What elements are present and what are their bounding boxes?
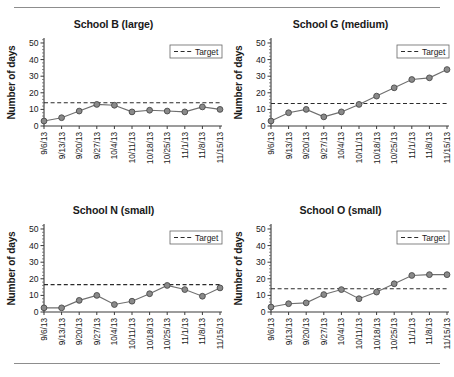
chart-panel-school-o: School O (small) Number of days 01020304…: [227, 200, 454, 377]
svg-text:10/11/13: 10/11/13: [128, 318, 137, 350]
svg-text:50: 50: [256, 224, 266, 234]
svg-text:0: 0: [261, 121, 266, 131]
y-axis-label: Number of days: [4, 34, 18, 130]
svg-text:11/15/13: 11/15/13: [216, 132, 225, 164]
svg-text:20: 20: [256, 88, 266, 98]
svg-text:10/4/13: 10/4/13: [110, 132, 119, 160]
svg-text:50: 50: [29, 224, 39, 234]
svg-text:10: 10: [29, 104, 39, 114]
svg-text:9/6/13: 9/6/13: [267, 318, 276, 341]
svg-text:9/20/13: 9/20/13: [75, 318, 84, 346]
svg-text:10/4/13: 10/4/13: [110, 318, 119, 346]
svg-text:11/8/13: 11/8/13: [425, 318, 434, 345]
svg-text:9/13/13: 9/13/13: [58, 318, 67, 346]
y-axis-label: Number of days: [231, 220, 245, 316]
chart-title: School B (large): [0, 18, 227, 30]
y-axis-label-text: Number of days: [233, 45, 244, 119]
top-divider-rule: [14, 7, 440, 8]
svg-text:50: 50: [29, 38, 39, 48]
svg-text:30: 30: [256, 257, 266, 267]
chart-area: Number of days 010203040509/6/139/13/139…: [0, 220, 227, 377]
svg-text:11/8/13: 11/8/13: [198, 318, 207, 345]
svg-text:11/8/13: 11/8/13: [198, 132, 207, 159]
svg-text:20: 20: [256, 274, 266, 284]
svg-text:11/1/13: 11/1/13: [181, 132, 190, 159]
chart-area: Number of days 010203040509/6/139/13/139…: [227, 34, 454, 194]
plot-svg: 010203040509/6/139/13/139/20/139/27/1310…: [18, 34, 224, 194]
svg-text:30: 30: [29, 257, 39, 267]
svg-text:11/15/13: 11/15/13: [443, 132, 452, 164]
svg-text:10/11/13: 10/11/13: [355, 318, 364, 350]
svg-text:10/18/13: 10/18/13: [373, 318, 382, 350]
svg-text:11/1/13: 11/1/13: [181, 318, 190, 345]
svg-text:40: 40: [256, 241, 266, 251]
svg-text:40: 40: [256, 55, 266, 65]
svg-text:9/20/13: 9/20/13: [302, 318, 311, 346]
svg-text:9/27/13: 9/27/13: [320, 318, 329, 346]
plot-svg: 010203040509/6/139/13/139/20/139/27/1310…: [245, 220, 451, 377]
svg-text:9/20/13: 9/20/13: [302, 132, 311, 160]
svg-text:0: 0: [34, 121, 39, 131]
chart-title: School G (medium): [227, 18, 454, 30]
y-axis-label-text: Number of days: [233, 231, 244, 305]
chart-panel-school-b: School B (large) Number of days 01020304…: [0, 14, 227, 200]
svg-text:11/1/13: 11/1/13: [408, 318, 417, 345]
chart-area: Number of days 010203040509/6/139/13/139…: [227, 220, 454, 377]
svg-text:10/18/13: 10/18/13: [146, 318, 155, 350]
chart-title: School O (small): [227, 204, 454, 216]
plot-svg: 010203040509/6/139/13/139/20/139/27/1310…: [245, 34, 451, 194]
svg-text:10: 10: [256, 290, 266, 300]
y-axis-label-text: Number of days: [6, 231, 17, 305]
svg-text:10/18/13: 10/18/13: [373, 132, 382, 164]
svg-text:Target: Target: [422, 47, 446, 57]
svg-text:0: 0: [34, 307, 39, 317]
svg-text:0: 0: [261, 307, 266, 317]
svg-text:9/20/13: 9/20/13: [75, 132, 84, 160]
svg-text:9/6/13: 9/6/13: [40, 318, 49, 341]
svg-text:9/6/13: 9/6/13: [267, 132, 276, 155]
svg-text:9/13/13: 9/13/13: [58, 132, 67, 160]
svg-text:30: 30: [29, 71, 39, 81]
svg-text:40: 40: [29, 55, 39, 65]
y-axis-label: Number of days: [4, 220, 18, 316]
svg-text:11/15/13: 11/15/13: [443, 318, 452, 350]
svg-text:10/11/13: 10/11/13: [355, 132, 364, 164]
svg-text:30: 30: [256, 71, 266, 81]
svg-text:Target: Target: [195, 233, 219, 243]
y-axis-label: Number of days: [231, 34, 245, 130]
svg-text:Target: Target: [422, 233, 446, 243]
svg-text:11/8/13: 11/8/13: [425, 132, 434, 159]
svg-text:10/18/13: 10/18/13: [146, 132, 155, 164]
svg-text:9/6/13: 9/6/13: [40, 132, 49, 155]
chart-panel-school-g: School G (medium) Number of days 0102030…: [227, 14, 454, 200]
svg-text:9/27/13: 9/27/13: [320, 132, 329, 160]
svg-text:10: 10: [256, 104, 266, 114]
svg-text:10/25/13: 10/25/13: [390, 318, 399, 350]
svg-text:10/4/13: 10/4/13: [337, 318, 346, 346]
svg-text:20: 20: [29, 88, 39, 98]
svg-text:10/25/13: 10/25/13: [163, 132, 172, 164]
svg-text:10/4/13: 10/4/13: [337, 132, 346, 160]
svg-text:40: 40: [29, 241, 39, 251]
svg-text:10: 10: [29, 290, 39, 300]
y-axis-label-text: Number of days: [6, 45, 17, 119]
figure-page: School B (large) Number of days 01020304…: [0, 0, 454, 377]
chart-area: Number of days 010203040509/6/139/13/139…: [0, 34, 227, 194]
svg-text:50: 50: [256, 38, 266, 48]
svg-text:20: 20: [29, 274, 39, 284]
plot-svg: 010203040509/6/139/13/139/20/139/27/1310…: [18, 220, 224, 377]
chart-panel-school-n: School N (small) Number of days 01020304…: [0, 200, 227, 377]
svg-text:9/13/13: 9/13/13: [285, 318, 294, 346]
chart-title: School N (small): [0, 204, 227, 216]
svg-text:10/25/13: 10/25/13: [390, 132, 399, 164]
svg-text:Target: Target: [195, 47, 219, 57]
svg-text:11/1/13: 11/1/13: [408, 132, 417, 159]
svg-text:10/25/13: 10/25/13: [163, 318, 172, 350]
svg-text:9/13/13: 9/13/13: [285, 132, 294, 160]
svg-text:10/11/13: 10/11/13: [128, 132, 137, 164]
svg-text:11/15/13: 11/15/13: [216, 318, 225, 350]
svg-text:9/27/13: 9/27/13: [93, 132, 102, 160]
chart-grid: School B (large) Number of days 01020304…: [0, 14, 454, 359]
svg-text:9/27/13: 9/27/13: [93, 318, 102, 346]
